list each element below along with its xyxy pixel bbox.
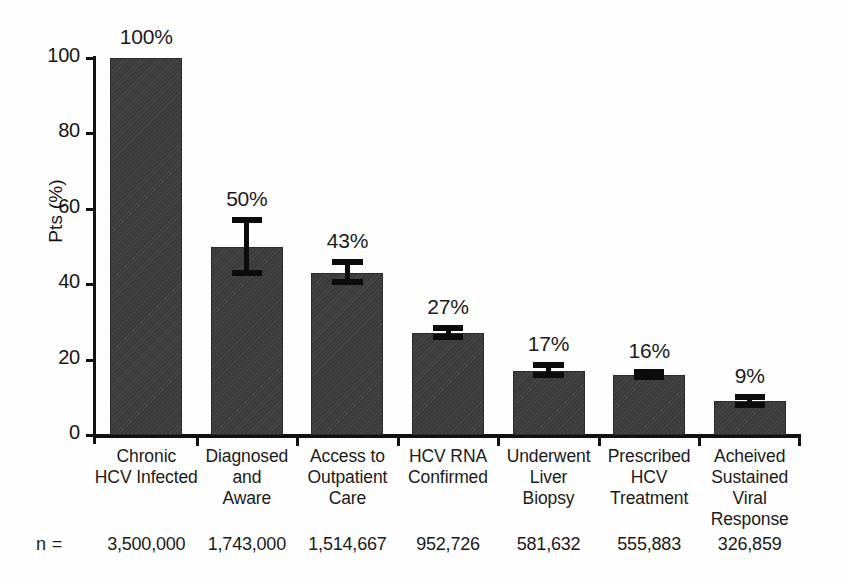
bar-value-label-0: 100% [86, 25, 206, 49]
n-row-label: n = [36, 534, 63, 555]
category-label-1: DiagnosedandAware [190, 446, 305, 509]
bar-2[interactable] [311, 273, 383, 435]
category-label-line: HCV RNA [391, 446, 506, 467]
error-bar-cap-upper-2 [332, 259, 362, 265]
bar-5[interactable] [613, 375, 685, 435]
category-label-line: Treatment [592, 488, 707, 509]
error-bar-stem-1 [244, 220, 249, 273]
error-bar-cap-lower-3 [433, 334, 463, 340]
category-label-line: HCV [592, 467, 707, 488]
error-bar-cap-lower-1 [232, 270, 262, 276]
category-label-line: Liver [491, 467, 606, 488]
bar-value-label-3: 27% [388, 295, 508, 319]
error-bar-cap-lower-2 [332, 279, 362, 285]
category-label-line: Underwent [491, 446, 606, 467]
figure-hcv-care-cascade: Pts (%) 020406080100 100%50%43%27%17%16%… [0, 0, 844, 582]
category-label-4: UnderwentLiverBiopsy [491, 446, 606, 509]
bar-4[interactable] [513, 371, 585, 435]
error-bar-cap-upper-6 [735, 394, 765, 400]
bar-value-label-2: 43% [287, 229, 407, 253]
category-label-line: Outpatient [290, 467, 405, 488]
category-label-line: Diagnosed [190, 446, 305, 467]
category-label-line: Prescribed [592, 446, 707, 467]
category-label-0: ChronicHCV Infected [89, 446, 204, 488]
error-bar-cap-lower-6 [735, 402, 765, 408]
error-bar-cap-lower-4 [533, 372, 563, 378]
bar-0[interactable] [110, 58, 182, 435]
category-label-line: Confirmed [391, 467, 506, 488]
error-bar-cap-upper-1 [232, 217, 262, 223]
error-bar-cap-upper-3 [433, 325, 463, 331]
bar-value-label-1: 50% [187, 187, 307, 211]
category-label-6: AcheivedSustained ViralResponse [692, 446, 807, 530]
category-label-line: Acheived [692, 446, 807, 467]
category-label-line: Response [692, 509, 807, 530]
category-label-line: and [190, 467, 305, 488]
bar-value-label-5: 16% [589, 339, 709, 363]
bar-value-label-6: 9% [690, 364, 810, 388]
category-label-3: HCV RNAConfirmed [391, 446, 506, 488]
error-bar-cap-upper-4 [533, 362, 563, 368]
category-label-line: Sustained Viral [692, 467, 807, 509]
n-value-6: 326,859 [690, 534, 810, 555]
category-label-5: PrescribedHCVTreatment [592, 446, 707, 509]
category-label-2: Access toOutpatientCare [290, 446, 405, 509]
error-bar-cap-lower-5 [634, 374, 664, 380]
category-label-line: Aware [190, 488, 305, 509]
category-label-line: Access to [290, 446, 405, 467]
bar-3[interactable] [412, 333, 484, 435]
category-label-line: Biopsy [491, 488, 606, 509]
category-label-line: Care [290, 488, 405, 509]
category-label-line: Chronic [89, 446, 204, 467]
category-label-line: HCV Infected [89, 467, 204, 488]
